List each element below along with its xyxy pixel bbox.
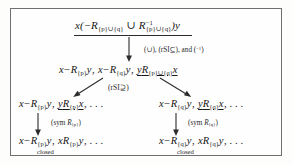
- sym-right-suffix: ): [216, 119, 218, 127]
- l3l-term2-subscript: {p}: [69, 103, 79, 110]
- l4l-term2-subscript: {p}: [69, 140, 79, 147]
- sym-left-subscript: {p}: [72, 122, 79, 127]
- root-relation-1: R: [91, 19, 98, 31]
- sym-right-subscript: {q}: [209, 122, 216, 127]
- rule-label-sym-right: (sym R{q}): [188, 119, 218, 127]
- l2-term3-x: x: [173, 64, 178, 75]
- l3l-term1-subscript: {p}: [37, 103, 47, 110]
- l4l-term1-y: y: [47, 135, 52, 146]
- l3r-term2-underlined: yR{q}x: [198, 98, 224, 109]
- l4l-term1-subscript: {p}: [37, 140, 47, 147]
- arrow-level2-to-level3-left: [71, 77, 105, 99]
- root-sequent: x(−R{p}∪{q}∪R−1{p}∪{q})y: [75, 19, 180, 33]
- l4r-term1-minus: −: [164, 135, 171, 146]
- leaf-sequent-left: x−R{p}y, xR{p}y, . . .: [19, 135, 104, 147]
- figure-frame: x(−R{p}∪{q}∪R−1{p}∪{q})y (∪), (rSI⊆), an…: [10, 8, 282, 156]
- proof-tree-figure: x(−R{p}∪{q}∪R−1{p}∪{q})y (∪), (rSI⊆), an…: [0, 0, 292, 165]
- l3r-term1-minus: −: [164, 98, 171, 109]
- l4r-term1-subscript: {q}: [177, 140, 187, 147]
- l3l-ellipsis: , . . .: [84, 98, 104, 109]
- rule-label-middle: (rSI⊇): [108, 83, 129, 92]
- rule-top-inverse-close: ): [201, 46, 203, 54]
- l3r-term1-subscript: {q}: [177, 103, 187, 110]
- arrow-root-to-level2: [123, 37, 135, 63]
- l2-term2-subscript: {q}: [116, 69, 126, 76]
- root-underline: [74, 35, 192, 36]
- arrow-level3-to-level4-right: [170, 113, 182, 137]
- third-sequent-right: x−R{q}y, yR{q}x, . . .: [159, 98, 244, 110]
- root-subscript-2: {p}∪{q}: [146, 25, 172, 32]
- third-sequent-left: x−R{p}y, yR{p}x, . . .: [19, 98, 104, 110]
- rule-label-top: (∪), (rSI⊆), and (−1): [144, 45, 204, 54]
- l2-term3-underlined: yR{p}∪{q}x: [137, 64, 177, 75]
- l2-term1-y: y: [87, 64, 92, 75]
- root-subscript-1: {p}∪{q}: [98, 25, 124, 32]
- rule-label-sym-left: (sym R{p}): [51, 119, 81, 127]
- l2-term2-minus: −: [103, 64, 110, 75]
- second-sequent: x−R{p}y, x−R{q}y, yR{p}∪{q}x: [59, 64, 178, 77]
- l3r-term2-x: x: [219, 98, 224, 109]
- arrow-level3-to-level4-left: [32, 113, 44, 137]
- root-relation-2: R: [139, 19, 146, 31]
- l4r-term2-subscript: {q}: [209, 140, 219, 147]
- l3l-term1-y: y: [47, 98, 52, 109]
- sym-left-prefix: (sym: [51, 119, 67, 127]
- root-lead: x(: [75, 19, 84, 31]
- sym-left-suffix: ): [79, 119, 81, 127]
- leaf-right-closed-caption: closed: [177, 148, 194, 155]
- l2-term3-subscript: {p}∪{q}: [148, 69, 172, 76]
- rule-top-rsi: (rSI⊆): [158, 46, 178, 54]
- sym-right-prefix: (sym: [188, 119, 204, 127]
- l4r-term1-y: y: [187, 135, 192, 146]
- l4r-term2-y: y: [219, 135, 224, 146]
- l3l-term2-x: x: [79, 98, 84, 109]
- leaf-sequent-right: x−R{q}y, xR{q}y, . . .: [159, 135, 244, 147]
- l3l-term1-minus: −: [24, 98, 31, 109]
- rule-top-and: , and: [178, 46, 194, 54]
- l4l-term2-y: y: [79, 135, 84, 146]
- l4l-ellipsis: , . . .: [84, 135, 104, 146]
- l3r-term2-subscript: {q}: [209, 103, 219, 110]
- l3r-ellipsis: , . . .: [224, 98, 244, 109]
- arrow-level2-to-level3-right: [158, 77, 194, 99]
- l2-term2-y: y: [126, 64, 131, 75]
- l2-term1-minus: −: [64, 64, 71, 75]
- rule-top-union: (∪),: [144, 46, 158, 54]
- root-tail: )y: [171, 19, 180, 31]
- l4r-ellipsis: , . . .: [224, 135, 244, 146]
- l4l-term1-minus: −: [24, 135, 31, 146]
- l3l-term2-underlined: yR{p}x: [58, 98, 84, 109]
- root-union-op: ∪: [124, 19, 139, 31]
- leaf-left-closed-caption: closed: [37, 148, 54, 155]
- root-minus-sign: −: [84, 19, 91, 31]
- l2-term1-subscript: {p}: [77, 69, 87, 76]
- l3r-term1-y: y: [187, 98, 192, 109]
